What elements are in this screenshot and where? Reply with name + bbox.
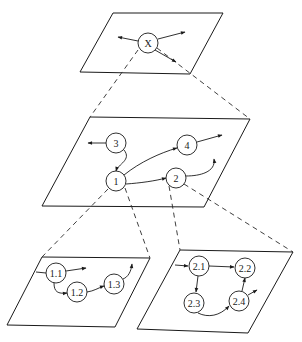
svg-text:1.1: 1.1	[50, 268, 63, 279]
svg-text:2: 2	[174, 173, 179, 184]
node-2-1: 2.1	[189, 256, 209, 276]
svg-text:X: X	[144, 38, 152, 49]
node-2-4: 2.4	[229, 291, 249, 311]
svg-text:1.3: 1.3	[108, 279, 121, 290]
middle-plane	[42, 117, 250, 207]
node-3: 3	[106, 133, 126, 153]
svg-text:2.3: 2.3	[188, 298, 201, 309]
node-1-3: 1.3	[104, 274, 124, 294]
svg-text:2.4: 2.4	[233, 296, 246, 307]
node-4: 4	[177, 135, 197, 155]
svg-text:1.2: 1.2	[71, 287, 84, 298]
svg-text:1: 1	[114, 176, 119, 187]
hierarchy-diagram: X 3 1 4 2 1.1 1.2 1.	[0, 0, 302, 342]
node-2-2: 2.2	[235, 258, 255, 278]
svg-text:4: 4	[185, 140, 190, 151]
node-x: X	[138, 33, 158, 53]
node-2-3: 2.3	[184, 293, 204, 313]
node-2: 2	[166, 168, 186, 188]
node-1-1: 1.1	[46, 263, 66, 283]
bottom-right-plane	[137, 250, 293, 333]
svg-text:3: 3	[114, 138, 119, 149]
node-1-2: 1.2	[67, 282, 87, 302]
svg-text:2.2: 2.2	[239, 263, 252, 274]
svg-text:2.1: 2.1	[193, 261, 206, 272]
node-1: 1	[106, 171, 126, 191]
